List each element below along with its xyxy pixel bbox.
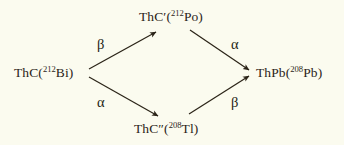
- node-branch-bottom-mass-number: 208: [169, 120, 182, 130]
- node-product-element: Pb: [303, 65, 317, 80]
- node-product-close-paren: ): [318, 65, 323, 80]
- node-branch-bottom-element: Tl: [182, 121, 194, 136]
- decay-label-alpha-parent-to-bottom: α: [97, 95, 105, 110]
- node-branch-top-thc-prime: ThC′(212Po): [139, 10, 203, 24]
- node-branch-top-close-paren: ): [198, 9, 203, 24]
- node-branch-top-mass-number: 212: [171, 8, 184, 18]
- node-branch-bottom-symbol: ThC: [134, 121, 158, 136]
- decay-diagram: ThC(212Bi) ThC′(212Po) ThC″(208Tl) ThPb(…: [0, 0, 344, 145]
- node-parent-symbol: ThC: [14, 65, 38, 80]
- node-branch-top-symbol: ThC: [139, 9, 163, 24]
- node-parent-mass-number: 212: [43, 64, 56, 74]
- decay-label-alpha-top-to-product: α: [231, 37, 239, 52]
- node-product-symbol: ThPb: [256, 65, 286, 80]
- decay-label-beta-bottom-to-product: β: [231, 95, 238, 110]
- node-product-thpb: ThPb(208Pb): [256, 66, 322, 80]
- arrow-branch-top-to-product: [190, 30, 249, 70]
- node-branch-top-element: Po: [184, 9, 198, 24]
- node-branch-bottom-thc-double-prime: ThC″(208Tl): [134, 122, 198, 136]
- arrow-branch-bottom-to-product: [189, 76, 249, 114]
- decay-label-beta-parent-to-top: β: [97, 37, 104, 52]
- node-branch-bottom-close-paren: ): [194, 121, 199, 136]
- node-product-mass-number: 208: [290, 64, 303, 74]
- node-parent-element: Bi: [56, 65, 69, 80]
- node-parent-close-paren: ): [69, 65, 74, 80]
- node-parent-thc: ThC(212Bi): [14, 66, 73, 80]
